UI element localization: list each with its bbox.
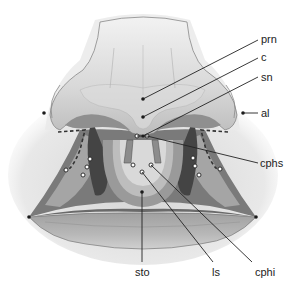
ch-left-point: [27, 215, 31, 219]
cphi-left-point: [131, 163, 135, 167]
label-cphi: cphi: [255, 266, 275, 278]
ch-right-point: [254, 215, 258, 219]
label-al: al: [261, 107, 270, 119]
al-left-point: [42, 111, 46, 115]
label-c: c: [261, 51, 267, 63]
label-cphs: cphs: [260, 157, 284, 169]
label-ls: ls: [212, 266, 220, 278]
label-prn: prn: [261, 33, 277, 45]
nasolabial-diagram: prn c sn al cphs sto ls cphi: [0, 0, 295, 290]
label-sn: sn: [261, 71, 273, 83]
label-sto: sto: [135, 266, 150, 278]
